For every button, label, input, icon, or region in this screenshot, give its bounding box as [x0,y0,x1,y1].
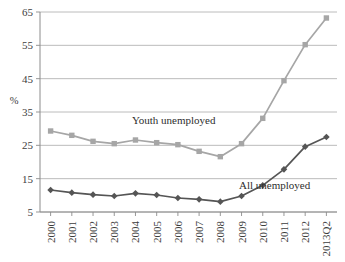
data-series-group [47,15,329,205]
x-tick-label: 2000 [45,221,57,244]
data-point-marker [324,15,329,20]
data-point-marker [217,198,224,205]
x-tick-label: 2013Q2 [320,221,332,256]
data-point-marker [196,196,203,203]
y-tick-label: 45 [22,73,34,85]
y-tick-label: 25 [22,139,34,151]
x-tick-label: 2003 [108,221,120,244]
data-point-marker [239,141,244,146]
data-point-marker [260,116,265,121]
data-point-marker [175,195,182,202]
x-tick-label: 2007 [193,221,205,244]
data-point-marker [238,193,245,200]
data-point-marker [218,154,223,159]
y-tick-label: 35 [22,106,34,118]
data-point-marker [69,133,74,138]
y-tick-label: 15 [22,173,34,185]
x-tick-label: 2001 [66,221,78,243]
data-point-marker [133,137,138,142]
data-point-marker [48,128,53,133]
x-tick-label: 2012 [299,221,311,243]
data-point-marker [90,139,95,144]
y-tick-label: 55 [22,39,34,51]
x-tick-label: 2004 [129,221,141,244]
series-all-unemployed [47,134,329,205]
x-tick-labels-group: 2000200120022003200420052006200720082009… [45,221,333,257]
chart-canvas: 5152535455565 20002001200220032004200520… [0,0,345,262]
series-label-youth-unemployed: Youth unemployed [132,114,216,126]
x-tick-label: 2008 [214,221,226,244]
series-label-all-unemployed: All unemployed [239,179,311,191]
data-point-marker [111,193,118,200]
x-tick-label: 2010 [257,221,269,244]
data-point-marker [132,190,139,197]
data-point-marker [90,191,97,198]
data-point-marker [196,149,201,154]
x-tick-label: 2006 [172,221,184,244]
series-youth-unemployed [48,15,329,159]
data-point-marker [112,141,117,146]
y-tick-label: 65 [22,6,34,18]
data-point-marker [302,42,307,47]
data-point-marker [69,189,76,196]
data-point-marker [175,142,180,147]
x-tick-label: 2005 [151,221,163,244]
data-point-marker [323,134,330,141]
x-tick-label: 2009 [236,221,248,244]
y-tick-label: 5 [28,206,34,218]
unemployment-line-chart: 5152535455565 20002001200220032004200520… [0,0,345,262]
series-line [51,18,327,157]
y-tick-labels-group: 5152535455565 [22,6,34,218]
y-axis-title: % [10,95,19,106]
data-point-marker [281,78,286,83]
x-tick-label: 2002 [87,221,99,243]
data-point-marker [47,187,54,194]
data-point-marker [153,192,160,199]
x-tick-label: 2011 [278,221,290,243]
y-axis-title-group: % [10,95,19,106]
data-point-marker [154,140,159,145]
